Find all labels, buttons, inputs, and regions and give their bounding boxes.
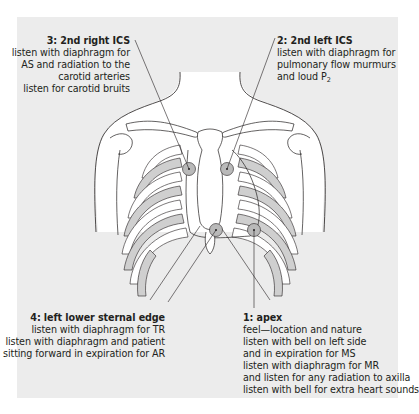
site-label-1-apex: 1: apex feel—location and nature listen … [243,312,419,396]
site-title: 2: 2nd left ICS [277,35,396,47]
site-title: 4: left lower sternal edge [3,312,165,324]
sternum [197,129,223,230]
site-label-4-left-lower-sternal-edge: 4: left lower sternal edge listen with d… [3,312,165,360]
leader-line-4 [168,230,216,302]
site-label-2-2nd-left-ics: 2: 2nd left ICS listen with diaphragm fo… [277,35,396,83]
site-title: 1: apex [243,312,419,324]
site-title: 3: 2nd right ICS [12,35,130,47]
site-label-3-2nd-right-ics: 3: 2nd right ICS listen with diaphragm f… [12,35,130,95]
